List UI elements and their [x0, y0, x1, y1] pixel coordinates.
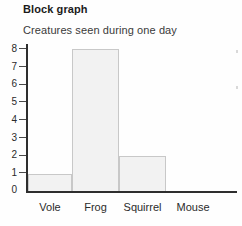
- y-axis-line: [26, 44, 28, 193]
- y-tick-label-8: 8: [3, 43, 17, 54]
- x-tick-label-mouse: Mouse: [168, 201, 218, 213]
- x-tick-label-vole: Vole: [28, 201, 72, 213]
- y-tick-label-5: 5: [3, 96, 17, 107]
- block-graph-figure: Block graph Creatures seen during one da…: [0, 0, 242, 226]
- y-tick-label-0: 0: [3, 184, 17, 195]
- x-axis-line: [26, 191, 237, 193]
- bar-frog: [72, 49, 119, 192]
- x-tick-label-frog: Frog: [72, 201, 119, 213]
- y-tick-label-6: 6: [3, 78, 17, 89]
- bar-squirrel: [119, 156, 166, 192]
- right-edge-artifact-lower: [236, 86, 238, 89]
- y-tick-label-1: 1: [3, 167, 17, 178]
- right-edge-artifact-upper: [236, 50, 238, 53]
- y-tick-label-7: 7: [3, 61, 17, 72]
- bar-vole: [28, 174, 72, 192]
- y-tick-label-3: 3: [3, 132, 17, 143]
- x-tick-label-squirrel: Squirrel: [119, 201, 166, 213]
- chart-plot-area: 8 7 6 5 4 3 2 1 0 Vole Frog Squirrel Mou…: [0, 0, 242, 226]
- y-tick-label-4: 4: [3, 114, 17, 125]
- y-tick-label-2: 2: [3, 149, 17, 160]
